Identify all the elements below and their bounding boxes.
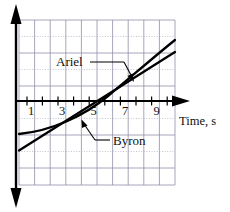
x-tick-label-1: 1 [28,104,34,118]
annotation-label-byron: Byron [113,133,146,148]
graph-figure: 1 3 5 7 9 Time, s Ariel Byron [0,0,230,212]
y-axis-down-arrow-icon [11,188,22,208]
x-tick-label-9: 9 [153,104,159,118]
annotation-arrowhead-byron [82,120,88,129]
graph-canvas: 1 3 5 7 9 Time, s Ariel Byron [0,0,230,212]
annotation-byron: Byron [82,120,147,149]
annotation-label-ariel: Ariel [56,54,83,69]
x-axis-right-arrow-icon [172,96,190,107]
annotation-ariel: Ariel [56,54,134,82]
axes [11,4,191,208]
y-axis-up-arrow-icon [11,4,22,24]
annotation-leader-byron-angle [84,124,95,140]
x-tick-label-7: 7 [122,104,128,118]
x-tick-label-3: 3 [59,104,65,118]
x-axis-title: Time, s [179,114,216,128]
